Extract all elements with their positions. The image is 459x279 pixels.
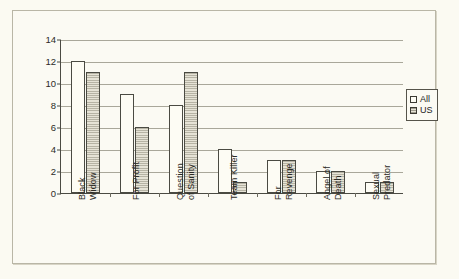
x-axis-category-label: Team Killer xyxy=(229,154,240,200)
legend-item-all: All xyxy=(410,95,433,104)
x-axis-tick-mark xyxy=(208,193,209,197)
x-axis-tick-mark xyxy=(110,193,111,197)
x-axis-category-label: Black Widow xyxy=(77,172,98,200)
x-axis-tick-mark xyxy=(159,193,160,197)
y-axis-tick-label: 12 xyxy=(45,57,56,67)
x-axis-category-label: For Profit xyxy=(131,162,142,200)
legend-swatch-us-icon xyxy=(410,107,417,114)
legend-swatch-all-icon xyxy=(410,96,417,103)
y-axis-tick-mark xyxy=(57,194,61,195)
x-axis-tick-mark xyxy=(257,193,258,197)
x-axis-category-label: Angel of Death xyxy=(322,166,343,200)
x-axis-category-label: Question of Sanity xyxy=(175,163,196,200)
legend-label-us: US xyxy=(420,106,433,115)
y-axis-tick-label: 14 xyxy=(45,35,56,45)
chart-screenshot: 02468101214 Black WidowFor ProfitQuestio… xyxy=(0,0,459,279)
gridline xyxy=(61,62,403,63)
y-axis-tick-label: 2 xyxy=(51,167,56,177)
y-axis-tick-label: 8 xyxy=(51,101,56,111)
y-axis-tick-mark xyxy=(57,62,61,63)
legend-label-all: All xyxy=(420,95,430,104)
x-axis-tick-mark xyxy=(355,193,356,197)
y-axis-tick-mark xyxy=(57,40,61,41)
x-axis-category-label: Sexual Predator xyxy=(371,165,392,200)
legend-item-us: US xyxy=(410,106,433,115)
y-axis-tick-label: 0 xyxy=(51,189,56,199)
y-axis-tick-label: 4 xyxy=(51,145,56,155)
y-axis-tick-mark xyxy=(57,106,61,107)
y-axis-tick-mark xyxy=(57,150,61,151)
gridline xyxy=(61,40,403,41)
x-axis-tick-mark xyxy=(306,193,307,197)
chart-frame: 02468101214 Black WidowFor ProfitQuestio… xyxy=(12,10,436,264)
gridline xyxy=(61,106,403,107)
y-axis-tick-label: 10 xyxy=(45,79,56,89)
y-axis-tick-mark xyxy=(57,84,61,85)
y-axis-tick-label: 6 xyxy=(51,123,56,133)
y-axis-tick-mark xyxy=(57,172,61,173)
y-axis-tick-mark xyxy=(57,128,61,129)
gridline xyxy=(61,128,403,129)
x-axis-category-label: For Revenge xyxy=(273,163,294,200)
chart-legend: All US xyxy=(406,89,438,121)
gridline xyxy=(61,84,403,85)
